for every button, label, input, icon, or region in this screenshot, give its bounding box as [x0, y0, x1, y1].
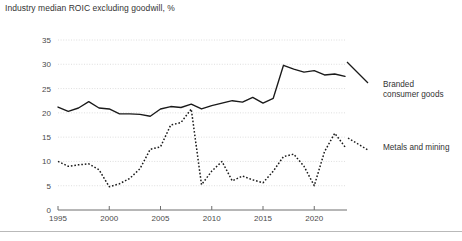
- x-axis-tick-label: 2010: [203, 214, 221, 223]
- x-axis-tick-label: 2005: [152, 214, 170, 223]
- y-axis-tick-label: 35: [42, 36, 51, 45]
- y-axis-tick-label: 15: [42, 133, 51, 142]
- y-axis-tick-label: 25: [42, 85, 51, 94]
- y-axis-tick-label: 20: [42, 109, 51, 118]
- y-axis-tick-label: 5: [47, 182, 52, 191]
- x-axis-tick-label: 2015: [254, 214, 272, 223]
- series-group: [58, 65, 345, 186]
- legend-label-branded-line1: Branded: [383, 80, 414, 89]
- chart-container: Industry median ROIC excluding goodwill,…: [0, 0, 462, 241]
- series-line-2: [58, 109, 345, 187]
- y-axis-tick-label: 30: [42, 60, 51, 69]
- x-axis-group: 199520002005201020152020: [49, 206, 347, 223]
- bottom-divider: [0, 231, 462, 232]
- legend-label-branded-line2: consumer goods: [383, 90, 444, 99]
- x-axis-tick-label: 2000: [100, 214, 118, 223]
- plot-area: 05101520253035 199520002005201020152020 …: [0, 0, 462, 232]
- legend-leader-lines: Brandedconsumer goodsMetals and mining: [347, 62, 450, 152]
- series-line-1: [58, 65, 345, 116]
- y-axis-ticks-group: 05101520253035: [42, 36, 51, 215]
- line-chart-svg: 05101520253035 199520002005201020152020 …: [0, 0, 462, 232]
- x-axis-tick-label: 2020: [305, 214, 323, 223]
- legend-label-metals: Metals and mining: [383, 143, 450, 152]
- legend-leader-branded: [347, 62, 368, 83]
- x-axis-tick-label: 1995: [49, 214, 67, 223]
- y-axis-tick-label: 10: [42, 157, 51, 166]
- legend-leader-metals: [348, 138, 368, 150]
